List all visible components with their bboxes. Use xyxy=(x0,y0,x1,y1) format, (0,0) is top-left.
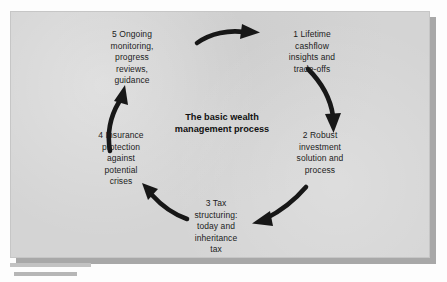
arrow-1-to-2-icon xyxy=(308,69,341,133)
cycle-node-3-tax-structuring: 3 Tax structuring: today and inheritance… xyxy=(174,198,258,256)
caption-bar-top xyxy=(10,263,91,267)
wealth-process-diagram-panel: 5 Ongoing monitoring, progress reviews, … xyxy=(10,11,430,258)
cycle-node-2-robust-investment: 2 Robust investment solution and process xyxy=(277,130,363,176)
cycle-node-1-lifetime-cashflow: 1 Lifetime cashflow insights and trade-o… xyxy=(269,29,355,75)
arrow-5-to-1-icon xyxy=(197,24,260,43)
caption-bar-bottom xyxy=(14,272,77,276)
arrow-2-to-3-icon xyxy=(252,187,306,226)
scanned-page: 5 Ongoing monitoring, progress reviews, … xyxy=(0,0,447,282)
cycle-node-4-insurance-protection: 4 Insurance protection against potential… xyxy=(77,130,165,188)
diagram-center-title: The basic wealth management process xyxy=(152,111,292,136)
cycle-node-5-ongoing-monitoring: 5 Ongoing monitoring, progress reviews, … xyxy=(89,29,175,87)
